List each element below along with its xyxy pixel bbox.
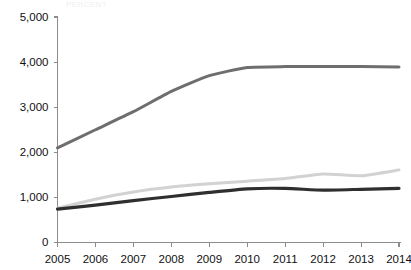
line-chart: PERCENT 01,0002,0003,0004,0005,000 20052…	[0, 0, 411, 270]
chart-series-group	[58, 67, 400, 210]
chart-plot-area: 01,0002,0003,0004,0005,000 2005200620072…	[0, 0, 411, 270]
x-axis-tick-label: 2012	[310, 253, 336, 265]
x-axis: 2005200620072008200920102011201220132014	[45, 243, 411, 265]
y-axis-tick-label: 0	[42, 236, 48, 248]
y-axis-tick-labels: 01,0002,0003,0004,0005,000	[20, 11, 49, 249]
x-axis-tick-labels: 2005200620072008200920102011201220132014	[45, 253, 411, 265]
y-axis-tick-label: 3,000	[20, 101, 49, 113]
x-axis-tick-label: 2005	[45, 253, 71, 265]
y-axis-tick-label: 5,000	[20, 11, 49, 23]
y-axis-tick-label: 1,000	[20, 191, 49, 203]
x-axis-tick-label: 2006	[83, 253, 109, 265]
x-axis-tick-label: 2011	[273, 253, 298, 265]
y-axis-tick-label: 4,000	[20, 56, 49, 68]
x-axis-tick-label: 2007	[121, 253, 147, 265]
y-axis-tick-label: 2,000	[20, 146, 49, 158]
x-axis-tick-label: 2014	[386, 253, 411, 265]
chart-series-series-top	[58, 67, 400, 148]
y-axis: 01,0002,0003,0004,0005,000	[20, 11, 58, 249]
chart-series-series-bottom	[58, 188, 400, 209]
x-axis-tick-label: 2008	[159, 253, 185, 265]
x-axis-ticks	[58, 243, 400, 247]
x-axis-tick-label: 2013	[348, 253, 374, 265]
x-axis-tick-label: 2010	[234, 253, 260, 265]
x-axis-tick-label: 2009	[196, 253, 222, 265]
